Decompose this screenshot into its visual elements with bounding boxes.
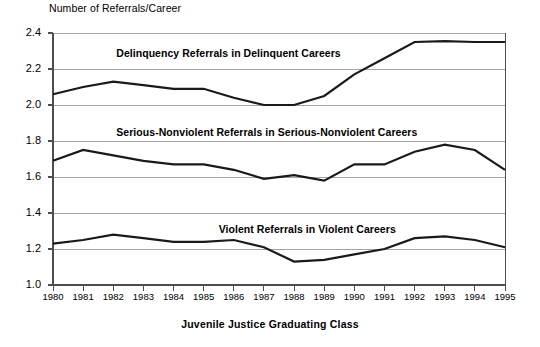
series-label-3: Violent Referrals in Violent Careers	[219, 223, 396, 235]
series-label-2: Serious-Nonviolent Referrals in Serious-…	[116, 126, 417, 138]
y-tick-label: 2.2	[9, 63, 41, 74]
series-line-2	[53, 145, 505, 181]
y-tick-label: 1.8	[9, 135, 41, 146]
y-tick-label: 1.4	[9, 207, 41, 218]
y-tick-label: 2.0	[9, 99, 41, 110]
series-label-1: Delinquency Referrals in Delinquent Care…	[116, 47, 340, 59]
y-tick-label: 2.4	[9, 27, 41, 38]
y-tick-label: 1.6	[9, 171, 41, 182]
series-line-3	[53, 235, 505, 262]
y-tick-label: 1.0	[9, 279, 41, 290]
y-tick-label: 1.2	[9, 243, 41, 254]
chart-container: Number of Referrals/Career Juvenile Just…	[0, 0, 540, 347]
x-axis-title: Juvenile Justice Graduating Class	[0, 318, 540, 330]
x-tick-label: 1995	[485, 292, 525, 302]
